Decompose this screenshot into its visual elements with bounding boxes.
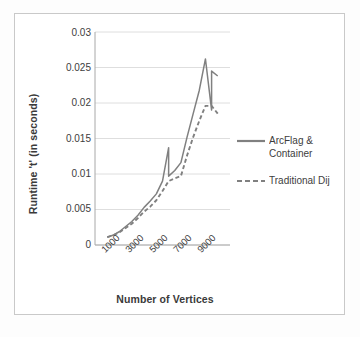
- plot-area: [95, 32, 230, 245]
- y-tick-label: 0.02: [47, 98, 91, 108]
- plot-svg: [95, 32, 230, 245]
- chart-frame: Runtime 't' (in seconds) 0.03 0.025 0.02…: [14, 13, 345, 315]
- solid-line-swatch-icon: [237, 135, 265, 147]
- data-series-group: [107, 59, 217, 237]
- gridlines: [95, 32, 230, 245]
- dashed-line-swatch-icon: [237, 175, 265, 187]
- y-tick-label: 0.005: [47, 204, 91, 214]
- series-line-1: [107, 59, 217, 237]
- y-tick-label: 0: [47, 240, 91, 250]
- legend-label-traditional-dijkstra: Traditional Dij: [269, 174, 345, 187]
- chart-screenshot: Runtime 't' (in seconds) 0.03 0.025 0.02…: [0, 0, 360, 337]
- series-line-2: [107, 106, 217, 237]
- y-tick-label: 0.025: [47, 63, 91, 73]
- y-axis-tick-labels: 0.03 0.025 0.02 0.015 0.01 0.005 0: [43, 14, 91, 315]
- y-tick-label: 0.03: [47, 28, 91, 38]
- y-tick-label: 0.015: [47, 134, 91, 144]
- x-axis-title: Number of Vertices: [75, 293, 255, 305]
- x-axis-tick-labels: 1000 3000 5000 7000 9000: [95, 247, 245, 287]
- legend-label-arcflag-container: ArcFlag & Container: [269, 134, 345, 160]
- legend-entry-arcflag-container: ArcFlag & Container: [237, 134, 345, 160]
- chart-legend: ArcFlag & Container Traditional Dij: [237, 134, 345, 201]
- legend-entry-traditional-dijkstra: Traditional Dij: [237, 174, 345, 187]
- y-axis-title: Runtime 't' (in seconds): [27, 54, 43, 254]
- y-tick-label: 0.01: [47, 169, 91, 179]
